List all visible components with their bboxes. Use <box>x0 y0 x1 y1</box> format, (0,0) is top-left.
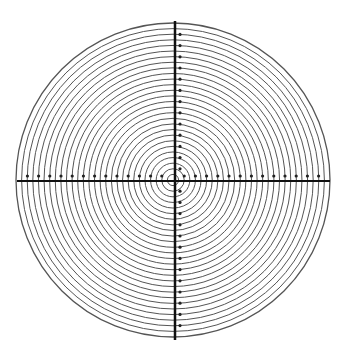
tick-dot <box>178 134 181 137</box>
tick-dot <box>127 174 130 177</box>
tick-dot <box>178 257 181 260</box>
concentric-ring-reticle <box>0 0 339 360</box>
tick-dot <box>261 174 264 177</box>
tick-dot <box>59 174 62 177</box>
tick-dot <box>178 212 181 215</box>
tick-dot <box>178 122 181 125</box>
tick-dot <box>82 174 85 177</box>
tick-dot <box>178 324 181 327</box>
tick-dot <box>178 190 181 193</box>
tick-dot <box>295 174 298 177</box>
tick-dot <box>178 89 181 92</box>
tick-dot <box>178 156 181 159</box>
tick-dot <box>48 174 51 177</box>
tick-dot <box>283 174 286 177</box>
tick-dot <box>183 174 186 177</box>
tick-dot <box>306 174 309 177</box>
tick-dot <box>178 313 181 316</box>
tick-dot <box>93 174 96 177</box>
tick-dot <box>216 174 219 177</box>
tick-dot <box>149 174 152 177</box>
tick-dot <box>178 167 181 170</box>
tick-dot <box>178 268 181 271</box>
tick-dot <box>250 174 253 177</box>
tick-dot <box>178 145 181 148</box>
tick-dot <box>178 279 181 282</box>
tick-dot <box>178 201 181 204</box>
tick-dot <box>115 174 118 177</box>
tick-dot <box>178 33 181 36</box>
tick-dot <box>178 246 181 249</box>
tick-dot <box>272 174 275 177</box>
tick-dot <box>178 302 181 305</box>
ring <box>27 34 319 326</box>
tick-dot <box>178 223 181 226</box>
tick-dot <box>178 55 181 58</box>
tick-dot <box>227 174 230 177</box>
tick-dot <box>178 111 181 114</box>
tick-dot <box>178 78 181 81</box>
tick-dot <box>178 66 181 69</box>
tick-dot <box>178 100 181 103</box>
tick-dot <box>160 174 163 177</box>
tick-dot <box>178 234 181 237</box>
tick-dot <box>37 174 40 177</box>
tick-dot <box>71 174 74 177</box>
tick-dot <box>194 174 197 177</box>
tick-dot <box>178 290 181 293</box>
tick-dot <box>104 174 107 177</box>
tick-dot <box>239 174 242 177</box>
tick-dot <box>138 174 141 177</box>
tick-dot <box>26 174 29 177</box>
reticle-canvas: Concentric circle reticle with crosshair <box>0 0 339 360</box>
tick-dot <box>178 44 181 47</box>
tick-dot <box>205 174 208 177</box>
tick-dot <box>317 174 320 177</box>
